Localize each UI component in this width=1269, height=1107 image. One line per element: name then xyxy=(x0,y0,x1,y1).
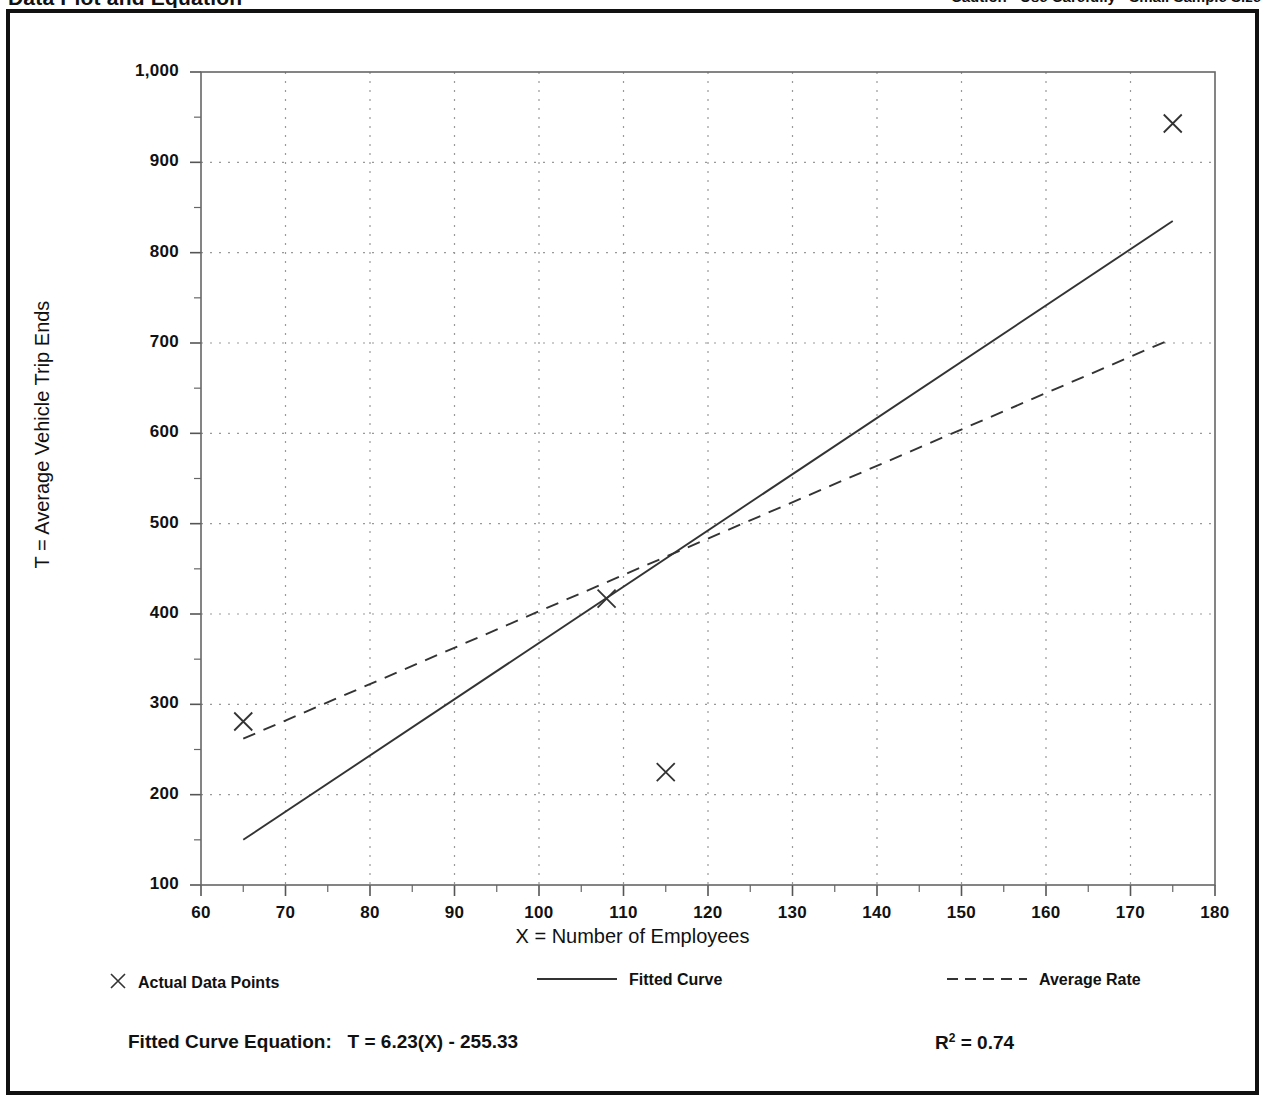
y-tick-label: 800 xyxy=(109,242,179,262)
x-tick-label: 160 xyxy=(1016,903,1076,923)
data-point-markers xyxy=(234,114,1182,781)
fitted-equation: Fitted Curve Equation: T = 6.23(X) - 255… xyxy=(128,1031,518,1053)
average-rate-line xyxy=(243,338,1173,738)
x-tick-label: 150 xyxy=(932,903,992,923)
r-squared-exponent: 2 xyxy=(949,1031,956,1045)
legend-item-average-rate: Average Rate xyxy=(945,971,1141,989)
chart-page: Data Plot and Equation Caution - Use Car… xyxy=(0,0,1269,1107)
y-tick-label: 400 xyxy=(109,603,179,623)
equation-footer: Fitted Curve Equation: T = 6.23(X) - 255… xyxy=(10,1031,1255,1071)
legend-label-fitted-curve: Fitted Curve xyxy=(629,971,722,989)
data-point-marker xyxy=(657,763,675,781)
y-tick-label: 1,000 xyxy=(109,61,179,81)
y-tick-label: 600 xyxy=(109,422,179,442)
x-tick-label: 70 xyxy=(256,903,316,923)
plot-area xyxy=(10,13,1255,913)
legend-item-actual-points: Actual Data Points xyxy=(108,971,279,995)
x-tick-label: 140 xyxy=(847,903,907,923)
page-title: Data Plot and Equation xyxy=(8,0,242,8)
r-squared-symbol: R xyxy=(935,1032,949,1053)
data-point-marker xyxy=(598,590,616,608)
x-tick-label: 110 xyxy=(594,903,654,923)
r-squared-number: = 0.74 xyxy=(961,1032,1014,1053)
equation-expression: T = 6.23(X) - 255.33 xyxy=(348,1031,519,1052)
y-tick-label: 100 xyxy=(109,874,179,894)
equation-label: Fitted Curve Equation: xyxy=(128,1031,332,1052)
y-tick-label: 200 xyxy=(109,784,179,804)
x-tick-label: 180 xyxy=(1185,903,1245,923)
y-tick-label: 900 xyxy=(109,151,179,171)
y-tick-label: 300 xyxy=(109,693,179,713)
legend-label-average-rate: Average Rate xyxy=(1039,971,1141,989)
x-tick-label: 120 xyxy=(678,903,738,923)
y-tick-label: 500 xyxy=(109,513,179,533)
data-point-marker xyxy=(234,712,252,730)
data-point-marker xyxy=(1164,114,1182,132)
header-band: Data Plot and Equation Caution - Use Car… xyxy=(0,0,1269,8)
r-squared-value: R2 = 0.74 xyxy=(935,1031,1014,1054)
x-marker-icon xyxy=(108,971,128,995)
x-tick-label: 130 xyxy=(763,903,823,923)
x-tick-label: 170 xyxy=(1101,903,1161,923)
legend-label-actual-points: Actual Data Points xyxy=(138,974,279,992)
x-tick-label: 100 xyxy=(509,903,569,923)
solid-line-icon xyxy=(535,971,619,989)
x-tick-label: 60 xyxy=(171,903,231,923)
x-tick-label: 80 xyxy=(340,903,400,923)
y-tick-label: 700 xyxy=(109,332,179,352)
figure-border: T = Average Vehicle Trip Ends 1002003004… xyxy=(6,9,1259,1095)
x-axis-title: X = Number of Employees xyxy=(10,925,1255,948)
chart-legend: Actual Data Points Fitted Curve xyxy=(10,971,1255,1005)
legend-item-fitted-curve: Fitted Curve xyxy=(535,971,722,989)
gridlines xyxy=(201,72,1215,885)
caution-note: Caution - Use Carefully - Small Sample S… xyxy=(951,0,1261,5)
chart-figure: T = Average Vehicle Trip Ends 1002003004… xyxy=(10,13,1255,1091)
dashed-line-icon xyxy=(945,971,1029,989)
x-tick-label: 90 xyxy=(425,903,485,923)
